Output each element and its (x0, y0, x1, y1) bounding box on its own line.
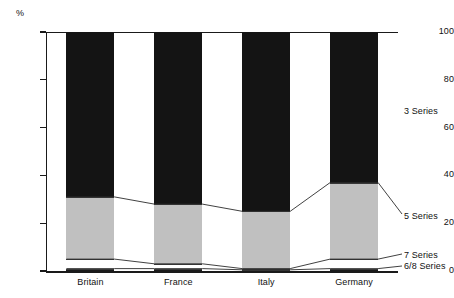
bar-segment-5-series (330, 183, 378, 259)
bar-segment-6-8-series (330, 269, 378, 271)
y-tick-mark (40, 223, 46, 224)
y-tick-label: 40 (420, 170, 454, 179)
y-axis-line (46, 32, 47, 272)
bar-segment-5-series (242, 211, 290, 268)
bar-italy (242, 32, 290, 271)
y-axis-unit-label: % (16, 8, 24, 18)
legend-item-5-series: 5 Series (404, 211, 438, 221)
bar-segment-3-series (330, 32, 378, 183)
x-tick-label-italy: Italy (221, 277, 311, 287)
y-tick-label: 80 (420, 75, 454, 84)
bar-segment-6-8-series (154, 269, 202, 271)
y-tick-mark (40, 270, 46, 271)
y-tick-mark (40, 175, 46, 176)
bar-segment-6-8-series (242, 270, 290, 271)
bar-segment-3-series (66, 32, 114, 197)
bar-britain (66, 32, 114, 271)
bar-segment-5-series (154, 204, 202, 264)
legend-item-7-series: 7 Series (404, 250, 438, 260)
bar-france (154, 32, 202, 271)
x-tick-label-britain: Britain (45, 277, 135, 287)
bar-segment-5-series (66, 197, 114, 259)
y-tick-mark (40, 31, 46, 32)
bar-segment-3-series (154, 32, 202, 204)
x-tick-label-france: France (133, 277, 223, 287)
bar-germany (330, 32, 378, 271)
bar-segment-3-series (242, 32, 290, 211)
y-tick-mark (40, 79, 46, 80)
legend-item-6-8-series: 6/8 Series (404, 261, 446, 271)
bar-segment-7-series (66, 259, 114, 269)
bar-segment-7-series (330, 259, 378, 269)
stacked-bar-chart: % 020406080100 BritainFranceItalyGermany… (0, 0, 454, 298)
y-tick-label: 60 (420, 123, 454, 132)
legend-item-3-series: 3 Series (404, 106, 438, 116)
x-axis-line (46, 271, 398, 273)
y-tick-mark (40, 127, 46, 128)
bar-segment-6-8-series (66, 269, 114, 271)
y-tick-label: 100 (420, 27, 454, 36)
x-tick-label-germany: Germany (309, 277, 399, 287)
